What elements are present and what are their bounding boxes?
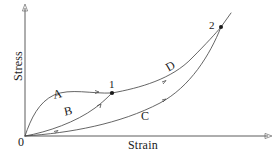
- data-point-1: [110, 91, 114, 95]
- point-label-1: 1: [109, 79, 115, 90]
- curve-c: [25, 27, 221, 136]
- curve-label-c: C: [141, 110, 149, 122]
- stress-strain-figure: Stress Strain 0 A B C D 1 2: [0, 0, 276, 160]
- data-point-2: [219, 25, 223, 29]
- stress-strain-plot: [0, 0, 276, 160]
- direction-marker-b: [97, 104, 101, 108]
- direction-marker-d: [162, 81, 166, 85]
- x-axis-label: Strain: [128, 139, 158, 151]
- curve-label-a: A: [52, 87, 63, 101]
- y-axis-label: Stress: [12, 36, 24, 96]
- origin-label: 0: [18, 136, 24, 148]
- point-label-2: 2: [209, 20, 215, 31]
